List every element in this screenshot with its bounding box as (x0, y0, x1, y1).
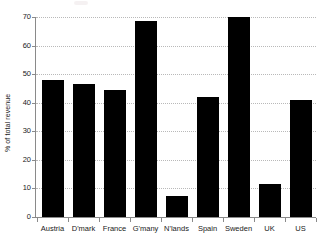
x-axis-tick (254, 218, 255, 222)
y-tick-label: 60 (23, 42, 31, 50)
x-tick-label: UK (264, 224, 274, 234)
bar-chart: % of total revenue 010203040506070 Austr… (0, 0, 322, 249)
y-axis-tick (32, 160, 36, 161)
x-tick-label: N'lands (164, 224, 189, 234)
bar (166, 196, 188, 217)
x-axis-tick (223, 218, 224, 222)
bar (135, 21, 157, 217)
x-axis-tick (192, 218, 193, 222)
plot-area: 010203040506070 (35, 17, 316, 218)
y-tick-label: 50 (23, 70, 31, 78)
y-tick-label: 0 (27, 213, 31, 221)
y-tick-label: 70 (23, 13, 31, 21)
x-axis-tick (316, 218, 317, 222)
gridline (36, 17, 316, 19)
x-tick-label: Austria (41, 224, 64, 234)
x-axis-tick (68, 218, 69, 222)
y-tick-label: 40 (23, 99, 31, 107)
x-axis-tick (99, 218, 100, 222)
y-tick-label: 10 (23, 184, 31, 192)
image-artifact (74, 1, 88, 5)
bar (197, 97, 219, 217)
bar (259, 184, 281, 217)
y-axis-tick (32, 217, 36, 218)
gridline (36, 46, 316, 48)
x-tick-label: G'many (133, 224, 159, 234)
y-axis-tick (32, 74, 36, 75)
x-tick-label: US (295, 224, 305, 234)
x-axis-line (35, 217, 316, 218)
bar (290, 100, 312, 217)
y-tick-label: 20 (23, 156, 31, 164)
x-tick-label: France (103, 224, 126, 234)
x-axis-tick (37, 218, 38, 222)
x-tick-label: Spain (198, 224, 217, 234)
bar (42, 80, 64, 217)
y-axis-tick (32, 17, 36, 18)
x-axis-tick (285, 218, 286, 222)
bar (73, 84, 95, 217)
gridline (36, 74, 316, 76)
y-axis-tick (32, 103, 36, 104)
y-axis-tick (32, 46, 36, 47)
x-axis-tick (161, 218, 162, 222)
x-tick-label: Sweden (225, 224, 252, 234)
y-axis-tick (32, 131, 36, 132)
x-axis-tick (130, 218, 131, 222)
x-axis-labels: AustriaD'markFranceG'manyN'landsSpainSwe… (35, 224, 316, 238)
bar (228, 17, 250, 217)
y-axis-tick (32, 188, 36, 189)
x-tick-label: D'mark (72, 224, 96, 234)
y-axis-title: % of total revenue (2, 62, 14, 152)
y-tick-label: 30 (23, 127, 31, 135)
bar (104, 90, 126, 217)
